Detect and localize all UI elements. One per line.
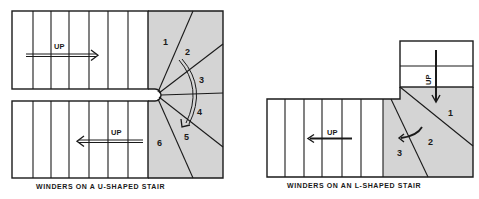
u-winder-4: 4 bbox=[197, 107, 202, 117]
u-shaped-stair: 1 2 3 4 5 6 UP UP WINDERS ON A U-SHAPED … bbox=[12, 11, 223, 190]
l-upper-up-label: UP bbox=[424, 75, 433, 85]
l-shaped-stair: 1 2 3 UP UP WINDERS ON AN L-SHAPED STAIR bbox=[267, 41, 473, 189]
u-lower-up-label: UP bbox=[111, 128, 121, 137]
l-winder-area bbox=[383, 87, 473, 177]
u-winder-1: 1 bbox=[163, 37, 168, 47]
u-upper-up-label: UP bbox=[54, 42, 64, 51]
u-upper-up-arrow-icon bbox=[26, 50, 98, 61]
u-winder-2: 2 bbox=[185, 47, 190, 57]
l-winder-1: 1 bbox=[448, 108, 453, 118]
l-caption: WINDERS ON AN L-SHAPED STAIR bbox=[287, 182, 421, 189]
l-lower-up-label: UP bbox=[327, 128, 337, 137]
u-winder-5: 5 bbox=[184, 132, 189, 142]
stair-diagrams: 1 2 3 4 5 6 UP UP WINDERS ON A U-SHAPED … bbox=[0, 0, 479, 199]
u-lower-up-arrow-icon bbox=[77, 136, 143, 147]
u-upper-treads bbox=[33, 11, 128, 89]
l-winder-2: 2 bbox=[428, 137, 433, 147]
l-winder-3: 3 bbox=[397, 148, 402, 158]
u-winder-6: 6 bbox=[157, 138, 162, 148]
u-winder-3: 3 bbox=[199, 75, 204, 85]
u-caption: WINDERS ON A U-SHAPED STAIR bbox=[36, 183, 165, 190]
